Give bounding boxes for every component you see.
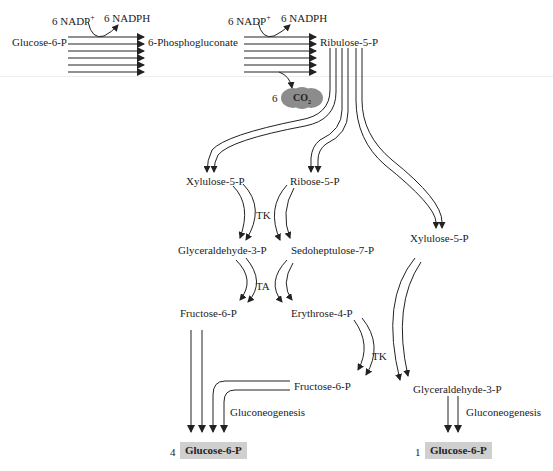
- nadp-sup-1: +: [90, 13, 95, 22]
- metabolite-erythrose-4-p: Erythrose-4-P: [291, 307, 353, 319]
- metabolite-glyceraldehyde-3-p-right: Glyceraldehyde-3-P: [413, 383, 502, 395]
- metabolite-glucose-6-p-start: Glucose-6-P: [12, 36, 67, 48]
- nadp-label-1: 6 NADP+: [52, 12, 95, 27]
- metabolite-6-phosphogluconate: 6-Phosphogluconate: [148, 36, 238, 48]
- product-coefficient-right: 1: [415, 446, 421, 458]
- metabolite-fructose-6-p-right: Fructose-6-P: [294, 380, 351, 392]
- metabolite-glyceraldehyde-3-p-left: Glyceraldehyde-3-P: [178, 244, 267, 256]
- nadp-text-1: 6 NADP: [52, 15, 90, 27]
- metabolite-xylulose-5-p-left: Xylulose-5-P: [186, 175, 245, 187]
- metabolite-ribose-5-p: Ribose-5-P: [290, 175, 340, 187]
- pathway-arrows: [0, 0, 553, 471]
- nadph-label-1: 6 NADPH: [104, 12, 150, 24]
- co2-label: CO2: [281, 92, 323, 105]
- process-gluconeogenesis-left: Gluconeogenesis: [230, 406, 305, 418]
- pentose-phosphate-diagram: 6 NADP+ 6 NADPH 6 NADP+ 6 NADPH Glucose-…: [0, 0, 553, 471]
- product-coefficient-left: 4: [170, 446, 176, 458]
- nadp-text-2: 6 NADP: [228, 15, 266, 27]
- enzyme-tk-1: TK: [256, 209, 271, 221]
- metabolite-sedoheptulose-7-p: Sedoheptulose-7-P: [291, 244, 374, 256]
- nadph-label-2: 6 NADPH: [281, 12, 327, 24]
- process-gluconeogenesis-right: Gluconeogenesis: [466, 406, 541, 418]
- product-glucose-6-p-left: Glucose-6-P: [180, 442, 247, 459]
- nadp-sup-2: +: [266, 13, 271, 22]
- metabolite-fructose-6-p-left: Fructose-6-P: [180, 307, 237, 319]
- co2-text: CO: [293, 92, 308, 103]
- nadp-label-2: 6 NADP+: [228, 12, 271, 27]
- metabolite-xylulose-5-p-right: Xylulose-5-P: [410, 232, 469, 244]
- product-glucose-6-p-right: Glucose-6-P: [425, 442, 492, 459]
- co2-subscript: 2: [308, 99, 311, 105]
- co2-bubble: CO2: [281, 87, 323, 109]
- metabolite-ribulose-5-p: Ribulose-5-P: [320, 36, 378, 48]
- co2-coefficient: 6: [272, 92, 278, 104]
- enzyme-ta: TA: [256, 280, 270, 292]
- enzyme-tk-2: TK: [372, 350, 387, 362]
